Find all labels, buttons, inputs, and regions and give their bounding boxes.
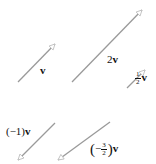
fraction-three-halves: 3 2 xyxy=(101,142,107,157)
vector-v xyxy=(18,44,55,82)
vector-2v xyxy=(72,10,142,82)
label-half-v: 1 2 v xyxy=(135,71,147,86)
label-2v: 2v xyxy=(107,54,118,65)
label-v: v xyxy=(40,65,46,76)
label-neg-v: (−1)v xyxy=(6,126,31,137)
fraction-one-half: 1 2 xyxy=(135,71,141,86)
vector-diagram xyxy=(0,0,156,164)
label-neg-three-halves-v: (− 3 2 )v xyxy=(90,142,118,157)
